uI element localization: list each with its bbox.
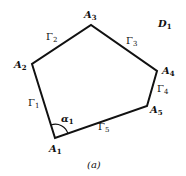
edge-label-gamma2: Γ2 [46, 31, 57, 44]
vertex-label-a2: A2 [13, 59, 27, 72]
angle-label-alpha1: α1 [61, 113, 74, 126]
vertex-label-a5: A5 [149, 104, 163, 117]
edge-label-gamma4: Γ4 [157, 83, 169, 96]
polygon-diagram: A1 A2 A3 A4 A5 Γ1 Γ2 Γ3 Γ4 Γ5 α1 D1 (a) [0, 0, 186, 176]
vertex-label-a3: A3 [83, 9, 97, 22]
edge-label-gamma3: Γ3 [126, 35, 137, 48]
figure-caption: (a) [87, 159, 101, 170]
edge-label-gamma1: Γ1 [28, 97, 39, 110]
vertex-label-a4: A4 [161, 65, 175, 78]
region-label-d1: D1 [157, 18, 172, 31]
vertex-label-a1: A1 [48, 143, 62, 156]
edge-label-gamma5: Γ5 [98, 121, 109, 134]
